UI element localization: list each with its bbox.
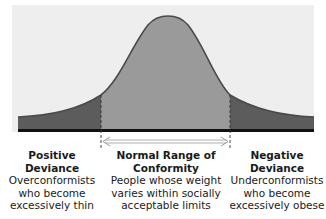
positive-deviance-label: Positive Deviance Overconformists who be…: [2, 149, 102, 212]
normal-range-desc-line1: People whose weight: [104, 174, 228, 187]
positive-deviance-desc-line3: excessively thin: [2, 199, 102, 212]
negative-deviance-desc-line2: who become: [228, 187, 326, 200]
negative-deviance-title-line2: Deviance: [228, 162, 326, 175]
negative-deviance-title-line1: Negative: [228, 149, 326, 162]
positive-deviance-desc-line1: Overconformists: [2, 174, 102, 187]
range-double-arrow-icon: [103, 137, 228, 146]
negative-deviance-desc-line3: excessively obese: [228, 199, 326, 212]
normal-range-desc-line2: varies within socially: [104, 187, 228, 200]
positive-deviance-title-line1: Positive: [2, 149, 102, 162]
normal-range-label: Normal Range of Conformity People whose …: [104, 149, 228, 212]
normal-range-title-line2: Conformity: [104, 162, 228, 175]
positive-deviance-desc-line2: who become: [2, 187, 102, 200]
normal-range-title-line1: Normal Range of: [104, 149, 228, 162]
positive-deviance-title-line2: Deviance: [2, 162, 102, 175]
negative-deviance-desc-line1: Underconformists: [228, 174, 326, 187]
normal-curve-figure: Positive Deviance Overconformists who be…: [0, 0, 326, 219]
normal-range-desc-line3: acceptable limits: [104, 199, 228, 212]
baseline-axis: [18, 129, 314, 132]
negative-deviance-label: Negative Deviance Underconformists who b…: [228, 149, 326, 212]
